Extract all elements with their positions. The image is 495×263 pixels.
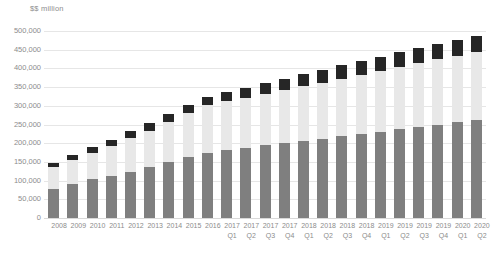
bar-segment-middle — [471, 52, 482, 120]
bar-segment-middle — [240, 98, 251, 148]
bar-segment-middle — [87, 153, 98, 179]
y-axis: 500,000450,000400,000350,000300,000250,0… — [0, 0, 41, 263]
bar-2019-q3[interactable] — [413, 48, 424, 218]
bar-segment-top — [240, 88, 251, 98]
y-axis-tick-label: 150,000 — [1, 158, 41, 166]
bar-segment-middle — [279, 90, 290, 143]
y-axis-tick-label: 100,000 — [1, 177, 41, 185]
bar-2015[interactable] — [183, 105, 194, 218]
bar-segment-bottom — [394, 129, 405, 218]
bar-2014[interactable] — [163, 114, 174, 218]
bar-segment-bottom — [298, 141, 309, 218]
bar-segment-bottom — [125, 172, 136, 218]
y-axis-tick-label: 300,000 — [1, 102, 41, 110]
bar-segment-top — [356, 61, 367, 75]
bar-segment-top — [163, 114, 174, 121]
x-axis-tick-label: 2020Q2 — [469, 221, 495, 240]
y-axis-tick-label: 250,000 — [1, 121, 41, 129]
y-axis-tick-label: 50,000 — [1, 195, 41, 203]
bar-segment-bottom — [279, 143, 290, 218]
bar-segment-top — [394, 52, 405, 67]
bar-segment-bottom — [67, 184, 78, 218]
bar-segment-top — [221, 92, 232, 101]
bar-segment-top — [432, 44, 443, 59]
bar-2012[interactable] — [125, 131, 136, 218]
bar-segment-bottom — [375, 132, 386, 218]
bar-segment-top — [298, 74, 309, 86]
bar-segment-top — [375, 57, 386, 71]
bar-segment-top — [471, 36, 482, 52]
bar-2017-q2[interactable] — [240, 88, 251, 218]
bar-segment-bottom — [221, 150, 232, 218]
bar-segment-middle — [48, 167, 59, 189]
bar-segment-bottom — [317, 139, 328, 218]
y-axis-tick-label: 450,000 — [1, 46, 41, 54]
bar-segment-middle — [67, 160, 78, 184]
bar-segment-middle — [452, 56, 463, 123]
y-axis-tick-label: 0 — [1, 214, 41, 222]
bar-segment-bottom — [471, 120, 482, 218]
bar-segment-bottom — [356, 134, 367, 218]
bar-2020-q2[interactable] — [471, 36, 482, 219]
bar-2018-q3[interactable] — [336, 65, 347, 218]
bar-2019-q1[interactable] — [375, 57, 386, 218]
bar-2017-q1[interactable] — [221, 92, 232, 218]
bar-segment-bottom — [183, 157, 194, 218]
bar-2009[interactable] — [67, 155, 78, 218]
bar-segment-middle — [183, 113, 194, 157]
bar-2017-q4[interactable] — [279, 79, 290, 218]
bar-2018-q1[interactable] — [298, 74, 309, 218]
bar-2017-q3[interactable] — [260, 83, 271, 218]
bar-segment-bottom — [202, 153, 213, 218]
bar-segment-bottom — [260, 145, 271, 218]
bar-segment-middle — [260, 94, 271, 146]
x-tick-quarter: Q2 — [469, 231, 495, 241]
bar-segment-bottom — [336, 136, 347, 218]
y-axis-tick-label: 200,000 — [1, 139, 41, 147]
bar-segment-middle — [202, 105, 213, 152]
bar-2008[interactable] — [48, 163, 59, 218]
bar-2019-q4[interactable] — [432, 44, 443, 218]
y-axis-tick-label: 500,000 — [1, 27, 41, 35]
bar-2020-q1[interactable] — [452, 40, 463, 218]
bar-2011[interactable] — [106, 140, 117, 219]
bar-2018-q2[interactable] — [317, 70, 328, 218]
bar-2018-q4[interactable] — [356, 61, 367, 218]
x-axis: 2008200920102011201220132014201520162017… — [44, 221, 486, 261]
y-axis-tick-label: 350,000 — [1, 83, 41, 91]
bar-segment-middle — [336, 79, 347, 137]
bar-segment-bottom — [87, 179, 98, 218]
bar-segment-top — [202, 97, 213, 105]
bar-segment-middle — [317, 83, 328, 139]
bar-2019-q2[interactable] — [394, 52, 405, 218]
bar-segment-top — [452, 40, 463, 56]
bar-segment-top — [183, 105, 194, 113]
bar-segment-top — [125, 131, 136, 138]
bar-segment-middle — [106, 146, 117, 176]
bar-segment-bottom — [163, 162, 174, 218]
bar-segment-top — [336, 65, 347, 78]
bar-segment-bottom — [413, 127, 424, 218]
bar-segment-bottom — [240, 148, 251, 218]
bar-segment-middle — [144, 131, 155, 168]
bar-2010[interactable] — [87, 147, 98, 218]
bar-segment-middle — [356, 75, 367, 134]
bar-segment-middle — [375, 71, 386, 132]
bar-2016[interactable] — [202, 97, 213, 218]
bar-segment-middle — [125, 138, 136, 172]
bar-segment-bottom — [432, 125, 443, 219]
bar-segment-bottom — [106, 176, 117, 218]
bar-segment-bottom — [452, 122, 463, 218]
bar-segment-middle — [394, 67, 405, 129]
bar-segment-top — [413, 48, 424, 63]
x-tick-year: 2020 — [469, 221, 495, 231]
bar-segment-top — [279, 79, 290, 90]
bar-2013[interactable] — [144, 123, 155, 218]
bar-segment-middle — [221, 101, 232, 150]
bar-segment-top — [144, 123, 155, 130]
bar-segment-middle — [413, 63, 424, 127]
y-axis-tick-label: 400,000 — [1, 64, 41, 72]
bar-segment-middle — [432, 59, 443, 124]
bar-segment-top — [260, 83, 271, 93]
